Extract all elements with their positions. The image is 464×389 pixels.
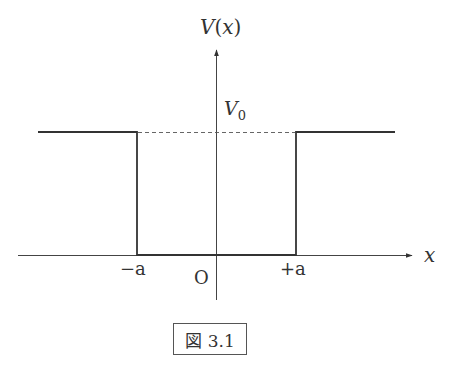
figure-caption: 図 3.1: [173, 323, 247, 355]
left-edge-label: −a: [120, 258, 146, 279]
right-edge-label: +a: [280, 258, 306, 279]
origin-label: O: [194, 267, 209, 288]
caption-text: 図 3.1: [185, 327, 234, 352]
v0-label: V0: [224, 97, 246, 123]
y-axis-label: V(x): [200, 15, 241, 39]
x-axis-label: x: [424, 243, 435, 267]
